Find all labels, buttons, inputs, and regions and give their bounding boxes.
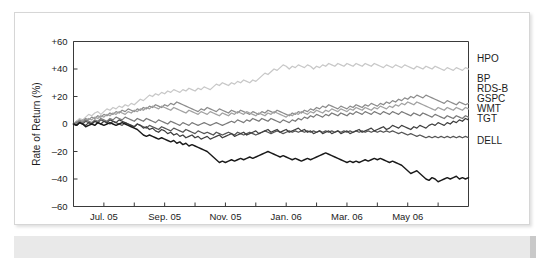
legend: HPOBPRDS-BGSPCWMTTGTDELL — [477, 53, 508, 146]
x-axis: Jul. 05Sep. 05Nov. 05Jan. 06Mar. 06May 0… — [74, 203, 469, 222]
caption-band-edge — [530, 236, 536, 258]
legend-label-tgt: TGT — [477, 113, 497, 124]
x-tick-label: Sep. 05 — [148, 211, 181, 222]
x-tick-label: Mar. 06 — [331, 211, 363, 222]
x-tick-label: Nov. 05 — [209, 211, 241, 222]
legend-label-hpo: HPO — [477, 53, 499, 64]
y-tick-label: –20 — [52, 146, 68, 157]
y-tick-label: +60 — [51, 36, 67, 47]
x-tick-label: Jul. 05 — [90, 211, 118, 222]
x-tick-label: May 06 — [392, 211, 423, 222]
y-tick-label: 0 — [62, 118, 67, 129]
y-tick-label: –60 — [52, 201, 68, 212]
y-tick-label: +40 — [51, 63, 67, 74]
y-axis-title: Rate of Return (%) — [31, 82, 42, 165]
y-tick-label: +20 — [51, 91, 67, 102]
x-tick-label: Jan. 06 — [271, 211, 302, 222]
legend-label-dell: DELL — [477, 135, 502, 146]
series-lines — [74, 64, 469, 182]
series-line-tgt — [74, 119, 469, 140]
figure-root: +60+40+200–20–40–60 Jul. 05Sep. 05Nov. 0… — [0, 0, 546, 258]
y-tick-label: –40 — [52, 173, 68, 184]
caption-band — [14, 236, 530, 258]
y-axis-title: Rate of Return (%) — [31, 82, 42, 165]
series-line-bp — [74, 95, 469, 124]
rate-of-return-line-chart: +60+40+200–20–40–60 Jul. 05Sep. 05Nov. 0… — [0, 0, 546, 258]
